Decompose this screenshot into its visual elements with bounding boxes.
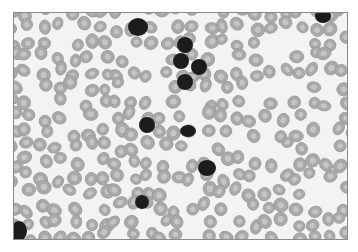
red-blood-cell (265, 159, 277, 174)
red-blood-cell (294, 158, 307, 172)
nucleated-cell (180, 125, 196, 137)
red-blood-cell (347, 185, 348, 204)
red-blood-cell (202, 105, 216, 120)
red-blood-cell (99, 84, 110, 96)
red-blood-cell (67, 171, 82, 185)
red-blood-cell (290, 51, 304, 63)
micrograph-frame (13, 12, 348, 240)
red-blood-cell (250, 70, 264, 81)
red-blood-cell (232, 49, 246, 61)
blood-smear-image (14, 13, 348, 240)
nucleated-cell (177, 74, 193, 90)
red-blood-cell (54, 152, 67, 163)
red-blood-cell (131, 36, 143, 47)
nucleated-cell (139, 117, 155, 133)
red-blood-cell (214, 108, 227, 122)
nucleated-cell (128, 18, 148, 36)
red-blood-cell (236, 76, 248, 90)
red-blood-cell (247, 198, 259, 210)
red-blood-cell (263, 202, 275, 214)
red-blood-cell (124, 128, 138, 142)
nucleated-cell (135, 195, 149, 209)
nucleated-cell (198, 160, 216, 176)
red-blood-cell (71, 215, 83, 229)
red-blood-cell (323, 212, 335, 226)
red-blood-cell (161, 66, 172, 77)
nucleated-cell (177, 37, 193, 53)
nucleated-cell (173, 53, 189, 69)
nucleated-cell (191, 59, 207, 75)
